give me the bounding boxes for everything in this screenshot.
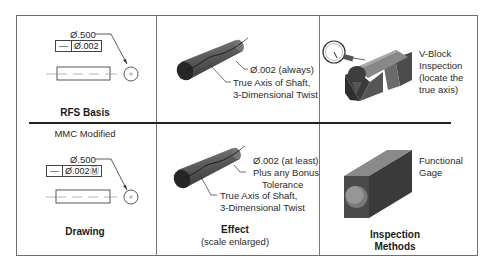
functional-gage-label-1: Functional (419, 155, 463, 166)
inspection-column-caption-1: Inspection (350, 229, 440, 240)
functional-gage-label-2: Gage (419, 167, 442, 178)
inspection-column-caption-2: Methods (350, 241, 440, 252)
